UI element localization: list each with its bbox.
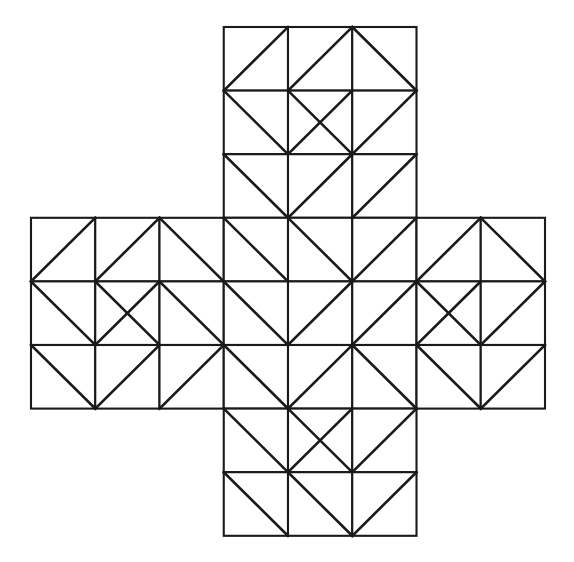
- figure-canvas: [0, 0, 574, 562]
- tessellation-diagram: [0, 0, 574, 562]
